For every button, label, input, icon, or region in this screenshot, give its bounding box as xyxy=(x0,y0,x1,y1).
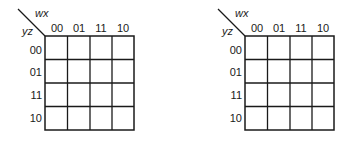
row-label: 00 xyxy=(224,45,242,56)
col-label: 00 xyxy=(46,23,68,34)
row-label: 10 xyxy=(224,113,242,124)
karnaugh-map-2: wx yz 00 01 11 10 00 01 11 10 xyxy=(200,0,353,141)
row-variable-label: yz xyxy=(22,26,33,37)
col-label: 01 xyxy=(268,23,290,34)
row-label: 11 xyxy=(224,90,242,101)
karnaugh-map-1: wx yz 00 01 11 10 00 01 11 10 xyxy=(0,0,176,141)
row-label: 10 xyxy=(24,113,42,124)
row-label: 01 xyxy=(24,67,42,78)
col-variable-label: wx xyxy=(235,8,248,19)
col-label: 11 xyxy=(90,23,112,34)
col-label: 10 xyxy=(112,23,134,34)
col-label: 11 xyxy=(290,23,312,34)
col-label: 10 xyxy=(312,23,334,34)
row-variable-label: yz xyxy=(222,26,233,37)
row-label: 00 xyxy=(24,45,42,56)
row-label: 11 xyxy=(24,90,42,101)
col-label: 00 xyxy=(246,23,268,34)
col-label: 01 xyxy=(68,23,90,34)
row-label: 01 xyxy=(224,67,242,78)
col-variable-label: wx xyxy=(35,8,48,19)
